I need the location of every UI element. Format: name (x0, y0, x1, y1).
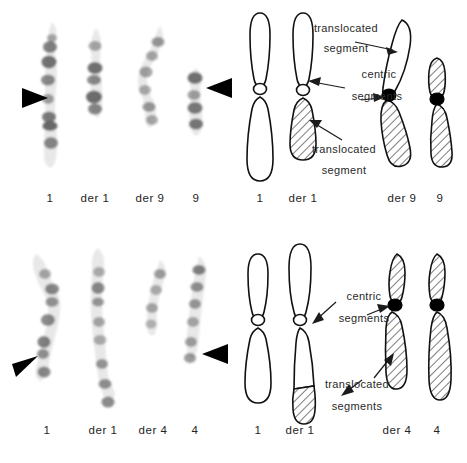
centromere-chrom-der1 (297, 85, 310, 96)
annot-translocated-lower-line2: segment (322, 164, 367, 176)
figure-root: 1 der 1 der 9 9 (0, 0, 467, 463)
ideogram-chrom-9 (429, 58, 452, 167)
annot-translocated-bottom-line2: segments (332, 400, 383, 412)
photo-chrom-der9 (138, 26, 165, 128)
annot-centric-bottom-line2: segments (339, 312, 390, 324)
photo-chrom-1-bottom (33, 254, 61, 381)
ideogram-chrom-der1 (290, 13, 316, 160)
bottom-ideogram-chromosomes (234, 232, 467, 463)
caption-chrom-der1: der 1 (80, 192, 109, 204)
photo-chrom-1 (41, 22, 58, 168)
ideogram-chrom-4 (429, 254, 451, 400)
caption-chrom-der9: der 9 (135, 192, 164, 204)
annot-centric-line2: segments (352, 90, 403, 102)
photo-chrom-der1-bottom (91, 248, 115, 408)
caption-ideogram-4: 4 (434, 424, 441, 436)
centromere-chrom-1 (254, 84, 267, 95)
caption-ideogram-der9: der 9 (387, 192, 416, 204)
photo-chrom-der4 (146, 260, 167, 335)
caption-chrom-9: 9 (193, 192, 200, 204)
caption-ideogram-1: 1 (257, 192, 264, 204)
ideogram-chrom-1-bottom (245, 254, 271, 403)
annot-translocated-upper-line1: translocated (314, 22, 378, 34)
caption-ideogram-1-bottom: 1 (255, 424, 262, 436)
annot-centric-bottom-line1: centric (347, 290, 382, 302)
centromere-chrom-der4 (388, 299, 402, 311)
caption-chrom-1-bottom: 1 (44, 424, 51, 436)
caption-chrom-4: 4 (192, 424, 199, 436)
annot-translocated-bottom-line1: translocated (325, 378, 389, 390)
annot-translocated-upper-line2: segment (324, 42, 369, 54)
panel-bottom-ideogram: centric segments translocated segments 1… (234, 232, 467, 463)
caption-chrom-der4: der 4 (138, 424, 167, 436)
panel-bottom-photomicrograph: 1 der 1 der 4 4 (0, 232, 234, 463)
centromere-chrom-9 (430, 93, 444, 105)
breakpoint-arrowhead-left (22, 88, 48, 108)
photo-chrom-9 (188, 68, 204, 136)
photo-chrom-der1 (86, 28, 103, 118)
caption-chrom-der1-bottom: der 1 (88, 424, 117, 436)
top-ideogram-chromosomes (234, 0, 467, 232)
annot-translocated-lower-line1: translocated (312, 143, 376, 155)
caption-chrom-1: 1 (47, 192, 54, 204)
caption-ideogram-9: 9 (437, 192, 444, 204)
breakpoint-arrowhead-right-bottom (202, 344, 228, 364)
panel-top-photomicrograph: 1 der 1 der 9 9 (0, 0, 234, 232)
centromere-chrom-1-bottom (252, 315, 265, 326)
breakpoint-arrowhead-right (206, 78, 232, 98)
caption-ideogram-der1: der 1 (288, 192, 317, 204)
photo-chrom-4 (184, 256, 206, 363)
caption-ideogram-der4: der 4 (382, 424, 411, 436)
caption-ideogram-der1-bottom: der 1 (285, 424, 314, 436)
panel-top-ideogram: translocated segment centric segments tr… (234, 0, 467, 232)
ideogram-chrom-der1-bottom (289, 244, 315, 424)
breakpoint-arrowhead-left-bottom (12, 356, 38, 377)
centromere-chrom-der1-bottom (294, 315, 307, 326)
ideogram-chrom-1 (247, 13, 273, 181)
centromere-chrom-4 (430, 299, 444, 311)
annot-centric-line1: centric (362, 68, 397, 80)
